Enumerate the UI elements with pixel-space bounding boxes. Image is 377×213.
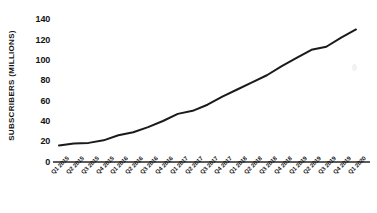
y-axis-tick-label: 100 [20,55,50,64]
faint-artifact-mark [352,64,357,71]
x-axis-tick-labels: Q1 2015Q2 2015Q3 2015Q4 2015Q1 2016Q2 20… [0,165,377,213]
y-axis-tick-label: 60 [20,96,50,105]
y-axis-tick-label: 120 [20,35,50,44]
y-axis-title-text: SUBSCRIBERS (MILLIONS) [7,30,16,141]
y-axis-tick-label: 20 [20,137,50,146]
y-axis-tick-label: 80 [20,76,50,85]
line-chart: SUBSCRIBERS (MILLIONS) 02040608010012014… [0,0,377,213]
y-axis-title: SUBSCRIBERS (MILLIONS) [0,0,22,170]
data-line-svg [53,12,370,163]
subscribers-line-series [59,29,356,145]
y-axis-tick-label: 140 [20,15,50,24]
y-axis-tick-label: 40 [20,117,50,126]
plot-area [53,12,370,163]
